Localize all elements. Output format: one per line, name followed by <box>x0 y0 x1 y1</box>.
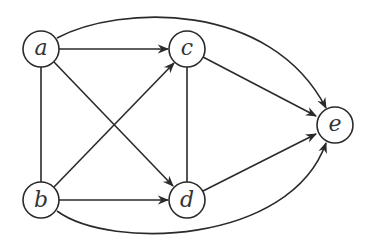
node-label-b: b <box>34 187 48 212</box>
edge-c-e <box>203 57 316 116</box>
node-e: e <box>317 107 353 143</box>
edge-d-e <box>203 134 316 191</box>
node-a: a <box>23 31 59 67</box>
graph-diagram: a b c d e <box>0 0 375 248</box>
node-d: d <box>169 182 205 218</box>
edge-a-d <box>54 62 173 186</box>
node-label-a: a <box>34 35 47 60</box>
node-b: b <box>23 182 59 218</box>
node-label-c: c <box>181 35 193 60</box>
node-label-e: e <box>328 111 341 136</box>
node-label-d: d <box>180 187 194 212</box>
node-c: c <box>169 31 205 67</box>
